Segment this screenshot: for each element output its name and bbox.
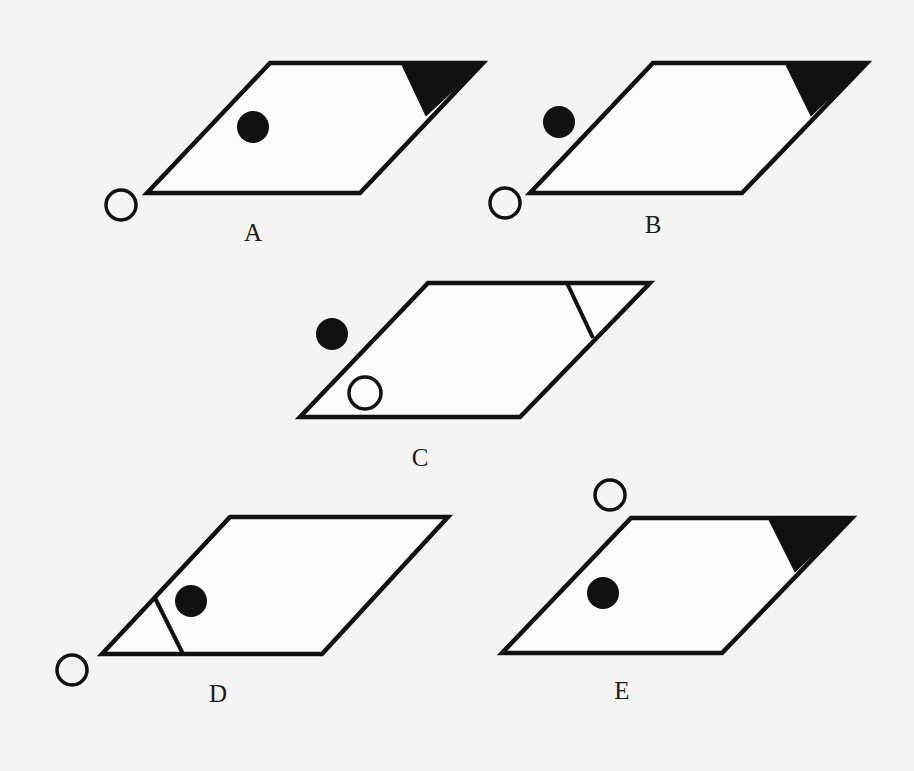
filled-dot-icon [237, 111, 269, 143]
hollow-circle-icon [57, 655, 87, 685]
diagram-canvas [0, 0, 914, 771]
filled-dot-icon [543, 106, 575, 138]
figure-options-diagram: A B C D E [0, 0, 914, 771]
option-b-figure [490, 63, 867, 218]
option-label-d: D [209, 681, 227, 706]
option-label-c: C [412, 445, 429, 470]
filled-dot-icon [316, 318, 348, 350]
option-label-e: E [614, 678, 629, 703]
option-c-figure [300, 283, 650, 417]
option-a-figure [106, 63, 483, 220]
hollow-circle-icon [490, 188, 520, 218]
option-e-figure [502, 480, 852, 653]
hollow-circle-icon [106, 190, 136, 220]
hollow-circle-icon [595, 480, 625, 510]
filled-dot-icon [587, 577, 619, 609]
option-d-figure [57, 517, 448, 685]
option-label-b: B [645, 212, 662, 237]
filled-dot-icon [175, 585, 207, 617]
parallelogram-shape [102, 517, 448, 654]
parallelogram-shape [300, 283, 650, 417]
option-label-a: A [244, 220, 262, 245]
